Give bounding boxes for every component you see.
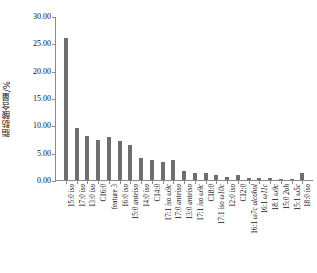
bar <box>161 162 165 180</box>
fatty-acid-bar-chart: 脂肪酸含量/% 0.005.0010.0015.0020.0025.0030.0… <box>0 0 317 273</box>
bar <box>85 136 89 180</box>
x-axis-tick-labels: 15:0 iso17:0 iso13:0 isoC16:0feature 316… <box>55 184 313 270</box>
bar <box>214 175 218 180</box>
y-tick-label: 20.00 <box>33 68 51 76</box>
x-tick-label: 17:0 iso <box>80 184 88 207</box>
x-tick-label: 18:0 iso <box>305 184 313 207</box>
x-tick-label: C12:0 <box>241 184 249 202</box>
y-axis-title: 脂肪酸含量/% <box>2 44 16 174</box>
bar <box>257 178 261 180</box>
y-tick-label: 5.00 <box>37 150 51 158</box>
bar-series <box>56 17 313 180</box>
y-tick-mark <box>52 72 56 73</box>
bar <box>107 137 111 180</box>
x-tick-label: 17:1 iso ω10c <box>219 184 227 224</box>
bar <box>150 160 154 180</box>
x-tick-label: 17:1 iso ω9c <box>166 184 174 221</box>
y-axis-tick-labels: 0.005.0010.0015.0020.0025.0030.00 <box>16 0 53 273</box>
y-tick-mark <box>52 154 56 155</box>
bar <box>204 173 208 180</box>
x-tick-label: 16:0 iso <box>123 184 131 207</box>
y-tick-label: 30.00 <box>33 13 51 21</box>
bar <box>75 128 79 180</box>
x-tick-label: C18:0 <box>209 184 217 202</box>
y-tick-label: 15.00 <box>33 95 51 103</box>
y-tick-label: 25.00 <box>33 40 51 48</box>
y-tick-mark <box>52 17 56 18</box>
x-tick-label: 18:1 ω9c <box>273 184 281 210</box>
x-tick-label: 15:0 2oh <box>284 184 292 209</box>
x-tick-label: 13:0 anteiso <box>187 184 195 219</box>
plot-area <box>55 17 313 181</box>
x-tick-label: 15:1 ω5c <box>295 184 303 210</box>
x-tick-label: 15:0 anteiso <box>133 184 141 219</box>
bar <box>247 178 251 180</box>
bar <box>96 140 100 180</box>
x-tick-label: C16:0 <box>101 184 109 202</box>
y-tick-label: 10.00 <box>33 122 51 130</box>
x-tick-label: C14:0 <box>155 184 163 202</box>
x-tick-label: 17:0 anteiso <box>176 184 184 219</box>
x-tick-label: 12:0 iso <box>230 184 238 207</box>
y-tick-mark <box>52 44 56 45</box>
x-tick-label: 14:0 iso <box>144 184 152 207</box>
x-tick-label: 15:0 iso <box>69 184 77 207</box>
x-tick-label: 16:1 ω11c <box>262 184 270 214</box>
bar <box>236 175 240 180</box>
bar <box>268 178 272 180</box>
y-tick-label: 0.00 <box>37 177 51 185</box>
bar <box>290 179 294 180</box>
bar <box>225 177 229 180</box>
y-tick-mark <box>52 99 56 100</box>
x-tick-label: feature 3 <box>112 184 120 209</box>
bar <box>118 141 122 180</box>
y-tick-mark <box>52 126 56 127</box>
bar <box>279 179 283 180</box>
bar <box>64 38 68 180</box>
x-tick-label: 16:1 ω7c alcohol <box>252 184 260 234</box>
bar <box>300 173 304 180</box>
bar <box>182 171 186 180</box>
y-tick-mark <box>52 181 56 182</box>
x-tick-label: 13:0 iso <box>90 184 98 207</box>
bar <box>193 173 197 180</box>
bar <box>171 160 175 180</box>
bar <box>128 145 132 180</box>
x-tick-label: 17:1 iso ω9c <box>198 184 206 221</box>
bar <box>139 158 143 180</box>
